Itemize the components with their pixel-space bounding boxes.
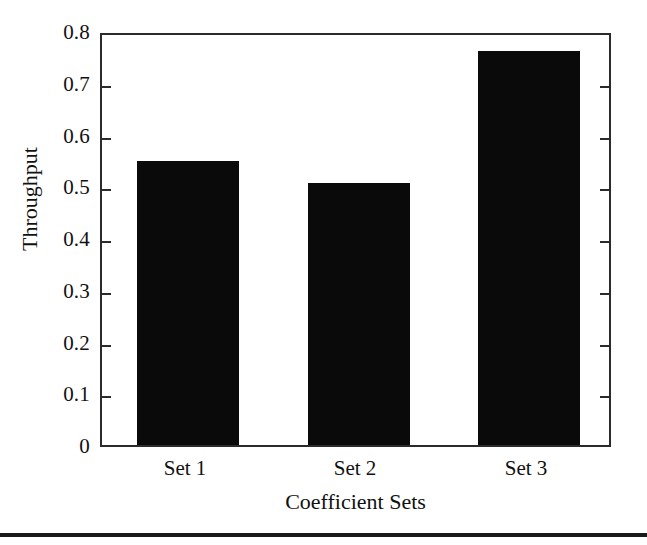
y-axis-tick-label: 0.5 [63,177,90,198]
y-axis-tick-label: 0 [79,436,90,457]
y-axis-tick-label: 0.4 [63,229,90,250]
y-axis-tick-right [600,345,609,347]
y-axis-tick-label: 0.3 [63,281,90,302]
bar-set-2 [308,183,410,445]
y-axis-tick-left [102,345,111,347]
x-axis-tick-label: Set 1 [100,456,270,481]
x-axis-tick-label: Set 3 [441,456,611,481]
y-axis-tick-label: 0.2 [63,333,90,354]
y-axis-tick-left [102,86,111,88]
y-axis-tick-right [600,189,609,191]
x-axis-tick-label: Set 2 [270,456,440,481]
y-axis-tick-left [102,396,111,398]
bar-chart-figure: Throughput 00.10.20.30.40.50.60.70.8 Set… [0,0,647,545]
y-axis-tick-right [600,86,609,88]
y-axis-tick-left [102,241,111,243]
plot-area [100,33,611,447]
bar-set-1 [137,161,239,445]
y-axis-tick-right [600,293,609,295]
y-axis-tick-left [102,189,111,191]
footer-rule [0,533,647,537]
y-axis-tick-label: 0.1 [63,384,90,405]
y-axis-tick-label: 0.7 [63,74,90,95]
y-axis-tick-right [600,396,609,398]
y-axis-tick-left [102,293,111,295]
y-axis-tick-labels: 00.10.20.30.40.50.60.70.8 [0,33,90,447]
bar-set-3 [478,51,580,445]
y-axis-tick-right [600,138,609,140]
x-axis-title: Coefficient Sets [100,489,611,515]
x-axis-tick-labels: Set 1Set 2Set 3 [100,456,611,486]
y-axis-tick-label: 0.6 [63,126,90,147]
y-axis-tick-left [102,138,111,140]
y-axis-tick-label: 0.8 [63,22,90,43]
y-axis-tick-right [600,241,609,243]
